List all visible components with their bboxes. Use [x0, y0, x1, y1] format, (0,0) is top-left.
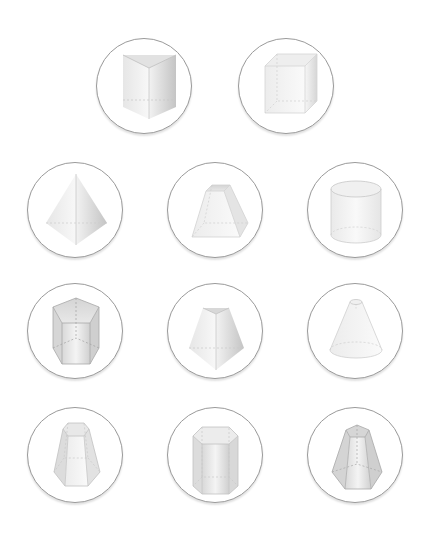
pentagonal-prism-icon [28, 284, 124, 380]
conical-frustum-icon [308, 284, 404, 380]
shape-card-cylinder[interactable]: Cylinder [307, 162, 403, 258]
shape-card-hexagonal-frustum[interactable]: Hexagonal frustum [27, 407, 123, 503]
shape-card-square-frustum[interactable]: Square frustum [167, 162, 263, 258]
triangular-pyramid-icon [28, 163, 124, 259]
shape-card-triangular-pyramid[interactable]: Triangular pyramid [27, 162, 123, 258]
shape-card-conical-frustum[interactable]: Conical frustum [307, 283, 403, 379]
shape-card-triangular-prism[interactable]: Triangular prism [96, 38, 192, 134]
shape-card-triangular-frustum[interactable]: Triangular frustum [167, 283, 263, 379]
shape-card-hexagonal-prism[interactable]: Hexagonal prism [167, 407, 263, 503]
triangular-prism-icon [97, 39, 193, 135]
pentagonal-frustum-icon [308, 408, 404, 504]
hexagonal-prism-icon [168, 408, 264, 504]
cylinder-icon [308, 163, 404, 259]
shape-card-pentagonal-frustum[interactable]: Pentagonal frustum [307, 407, 403, 503]
triangular-frustum-icon [168, 284, 264, 380]
rectangular-prism-icon [239, 39, 335, 135]
shape-card-rectangular-prism[interactable]: Rectangular prism [238, 38, 334, 134]
square-frustum-icon [168, 163, 264, 259]
shape-card-pentagonal-prism[interactable]: Pentagonal prism [27, 283, 123, 379]
hexagonal-frustum-icon [28, 408, 124, 504]
